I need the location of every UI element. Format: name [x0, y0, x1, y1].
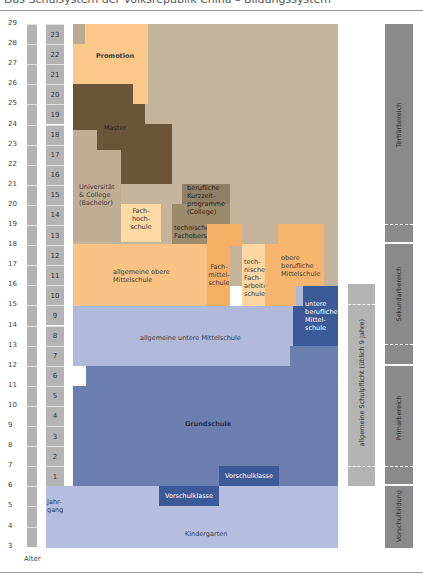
age-cell — [27, 366, 37, 386]
label-kurzzeit: berufliche Kurzzeit- programme (College) — [187, 184, 232, 216]
label-obere-berufliche: obere berufliche Mittelschule — [281, 254, 326, 278]
label-allgemeine-obere: allgemeine obere Mittelschule — [113, 268, 193, 284]
age-axis-label: Alter — [24, 555, 41, 563]
label-sekundar: Sekundarbereich — [395, 259, 403, 329]
block-grundschule-top — [86, 366, 338, 386]
age-tick: 29 — [8, 19, 22, 27]
age-cell — [27, 185, 37, 205]
dash-tertiaer — [385, 224, 413, 225]
age-cell — [27, 64, 37, 84]
age-cell — [27, 466, 37, 486]
age-tick: 19 — [8, 220, 22, 228]
grade-cell: 7 — [46, 346, 64, 366]
age-tick: 11 — [8, 381, 22, 389]
block-promotion-body — [73, 44, 148, 84]
grade-cell: 13 — [46, 225, 64, 245]
grade-cell: 21 — [46, 64, 64, 84]
grade-cell: 9 — [46, 305, 64, 325]
age-tick: 8 — [8, 441, 22, 449]
label-vorschulklasse-1: Vorschulklasse — [219, 472, 279, 480]
age-tick: 4 — [8, 522, 22, 530]
block-grundschule-step — [290, 346, 338, 366]
age-cell — [27, 527, 37, 547]
label-universitaet: Universität & College (Bachelor) — [79, 183, 124, 207]
age-tick: 23 — [8, 140, 22, 148]
grade-cell: 18 — [46, 125, 64, 145]
grade-cell: 8 — [46, 326, 64, 346]
age-tick: 10 — [8, 401, 22, 409]
age-cell — [27, 326, 37, 346]
label-kindergarten: Kindergarten — [185, 530, 245, 538]
label-grundschule: Grundschule — [185, 420, 245, 428]
dash-schulpflicht-bot — [348, 466, 375, 467]
age-tick: 16 — [8, 280, 22, 288]
block-obere-berufliche-low2 — [278, 286, 296, 306]
label-untere-berufliche: untere berufliche Mittel- schule — [305, 300, 340, 332]
block-fachmittelschule-ext — [230, 224, 242, 246]
age-cell — [27, 446, 37, 466]
age-cell — [27, 24, 37, 44]
grade-cell: 3 — [46, 426, 64, 446]
age-tick: 9 — [8, 421, 22, 429]
label-fachmittelschule: Fach- mittel- schule — [206, 263, 232, 287]
grade-cell: 14 — [46, 205, 64, 225]
label-fachhochschule: Fach- hoch- schule — [121, 207, 161, 231]
age-cell — [27, 245, 37, 265]
label-schulpflicht: allgemeine Schulpflicht (üblich 9 Jahre) — [358, 322, 366, 447]
grade-cell: 2 — [46, 446, 64, 466]
block-grundschule — [73, 386, 338, 486]
dash-schulpflicht-top — [348, 304, 375, 305]
grade-cell: 22 — [46, 44, 64, 64]
age-cell — [27, 265, 37, 285]
age-cell — [27, 225, 37, 245]
grade-cell: 23 — [46, 24, 64, 44]
label-primar: Primarbereich — [395, 383, 403, 453]
age-tick: 7 — [8, 461, 22, 469]
grade-axis-label: Jahr- gang — [47, 498, 63, 514]
block-promotion — [85, 24, 148, 44]
age-cell — [27, 486, 37, 506]
age-tick: 25 — [8, 99, 22, 107]
age-tick: 14 — [8, 321, 22, 329]
grade-cell: 10 — [46, 285, 64, 305]
age-cell — [27, 145, 37, 165]
grade-cell: 5 — [46, 386, 64, 406]
block-promotion-step — [133, 84, 148, 104]
grade-cell: 11 — [46, 265, 64, 285]
label-tertiaer: Tertiärbereich — [395, 90, 403, 160]
grade-cell: 4 — [46, 406, 64, 426]
bottom-divider — [0, 572, 423, 573]
age-tick: 15 — [8, 300, 22, 308]
age-cell — [27, 285, 37, 305]
corner-gap — [73, 24, 85, 44]
label-vorschulklasse-2: Vorschulklasse — [159, 492, 219, 500]
label-vorschul: Vorschulbildung — [395, 481, 403, 551]
age-cell — [27, 426, 37, 446]
age-cell — [27, 125, 37, 145]
age-tick: 28 — [8, 39, 22, 47]
age-cell — [27, 165, 37, 185]
grade-cell: 20 — [46, 84, 64, 104]
age-tick: 24 — [8, 120, 22, 128]
age-tick: 5 — [8, 501, 22, 509]
age-cell — [27, 44, 37, 64]
grade-cell: 12 — [46, 245, 64, 265]
age-cell — [27, 406, 37, 426]
block-master-step0 — [133, 124, 172, 134]
grade-cell: 6 — [46, 366, 64, 386]
block-master-step2 — [121, 150, 172, 184]
age-cell — [27, 205, 37, 225]
age-cell — [27, 346, 37, 366]
age-tick: 20 — [8, 200, 22, 208]
age-tick: 3 — [8, 542, 22, 550]
age-tick: 27 — [8, 59, 22, 67]
age-cell — [27, 104, 37, 124]
label-allgemeine-untere: allgemeine untere Mittelschule — [140, 334, 280, 342]
age-tick: 26 — [8, 79, 22, 87]
age-cell — [27, 386, 37, 406]
age-cell — [27, 305, 37, 325]
age-tick: 21 — [8, 180, 22, 188]
age-tick: 6 — [8, 481, 22, 489]
label-master: Master — [95, 124, 135, 132]
age-tick: 13 — [8, 341, 22, 349]
